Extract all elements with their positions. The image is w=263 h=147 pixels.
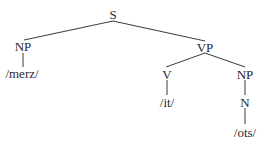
node-merz: /merz/ xyxy=(5,67,38,80)
node-np-object: NP xyxy=(237,68,254,81)
edge-vp-np xyxy=(205,53,245,67)
syntax-tree: S NP /merz/ VP V /it/ NP N /ots/ xyxy=(0,0,263,147)
node-vp: VP xyxy=(197,41,214,54)
node-s: S xyxy=(109,8,116,21)
edge-s-np xyxy=(24,21,113,40)
node-np-subject: NP xyxy=(15,40,32,53)
edge-s-vp xyxy=(113,21,205,41)
node-v: V xyxy=(162,68,171,81)
node-ots: /ots/ xyxy=(234,126,256,139)
edge-vp-v xyxy=(166,53,205,67)
node-it: /it/ xyxy=(160,96,174,109)
tree-edges xyxy=(0,0,263,147)
node-n: N xyxy=(240,96,249,109)
